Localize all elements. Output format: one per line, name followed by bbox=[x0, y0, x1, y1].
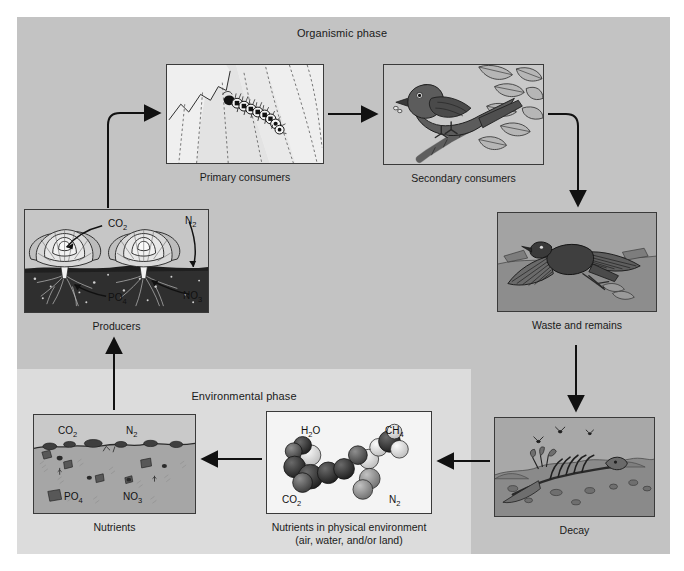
caption-primary-consumers: Primary consumers bbox=[166, 171, 324, 184]
caterpillar-on-leaf-illustration bbox=[167, 65, 323, 163]
panel-producers[interactable]: CO2 N2 PO4 NO3 bbox=[24, 209, 209, 313]
decay-skeleton-illustration bbox=[495, 418, 654, 516]
environmental-phase-label: Environmental phase bbox=[17, 390, 471, 402]
panel-molecules[interactable]: H2O CH4 CO2 N2 bbox=[266, 411, 432, 514]
nutrients-co2-label: CO2 bbox=[58, 425, 77, 439]
bird-on-branch-illustration bbox=[384, 65, 543, 164]
producers-no3-label: NO3 bbox=[183, 290, 202, 304]
producers-n2-label: N2 bbox=[185, 215, 196, 229]
nutrient-cycle-figure: Organismic phase Environmental phase bbox=[0, 0, 684, 571]
caption-secondary-consumers: Secondary consumers bbox=[383, 172, 544, 185]
caption-decay: Decay bbox=[494, 524, 655, 537]
caption-producers: Producers bbox=[24, 320, 209, 333]
nutrients-po4-label: PO4 bbox=[64, 491, 83, 505]
caption-nutrients: Nutrients bbox=[33, 521, 196, 534]
caption-molecules: Nutrients in physical environment (air, … bbox=[240, 521, 458, 547]
molecules-n2-label: N2 bbox=[389, 494, 400, 508]
panel-primary-consumers[interactable] bbox=[166, 64, 324, 164]
nutrients-n2-label: N2 bbox=[126, 425, 137, 439]
producers-co2-label: CO2 bbox=[108, 218, 127, 232]
panel-nutrients[interactable]: CO2 N2 PO4 NO3 bbox=[33, 414, 196, 514]
panel-decay[interactable] bbox=[494, 417, 655, 517]
molecules-co2-label: CO2 bbox=[282, 494, 301, 508]
organismic-phase-label: Organismic phase bbox=[0, 27, 684, 39]
molecules-ch4-label: CH4 bbox=[385, 425, 404, 439]
producers-po4-label: PO4 bbox=[108, 292, 127, 306]
caption-waste-and-remains: Waste and remains bbox=[497, 319, 657, 332]
molecules-h2o-label: H2O bbox=[301, 425, 320, 439]
dead-bird-illustration bbox=[498, 213, 656, 311]
panel-secondary-consumers[interactable] bbox=[383, 64, 544, 165]
panel-waste-and-remains[interactable] bbox=[497, 212, 657, 312]
nutrients-no3-label: NO3 bbox=[123, 491, 142, 505]
